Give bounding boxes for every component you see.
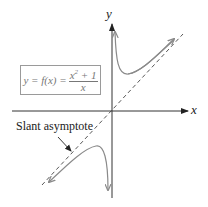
curve-lower-left-arrow xyxy=(49,146,96,182)
curve-lower-branch xyxy=(96,146,108,190)
graph-canvas xyxy=(0,0,208,207)
asymptote-pointer-arrow xyxy=(58,137,71,151)
formula-num-rest: + 1 xyxy=(78,69,96,81)
formula-fraction: x2 + 1 x xyxy=(69,67,98,93)
formula-denominator: x xyxy=(81,82,86,93)
formula-lhs: y = f(x) = xyxy=(23,74,66,86)
y-axis-label: y xyxy=(106,6,112,22)
curve-upper-branch xyxy=(115,32,174,74)
curve-upper-right-arrow xyxy=(128,39,174,74)
x-axis-label: x xyxy=(191,102,197,118)
formula-box: y = f(x) = x2 + 1 x xyxy=(20,65,101,95)
slant-asymptote-label: Slant asymptote xyxy=(16,119,93,134)
formula-numerator: x2 + 1 xyxy=(69,67,98,82)
